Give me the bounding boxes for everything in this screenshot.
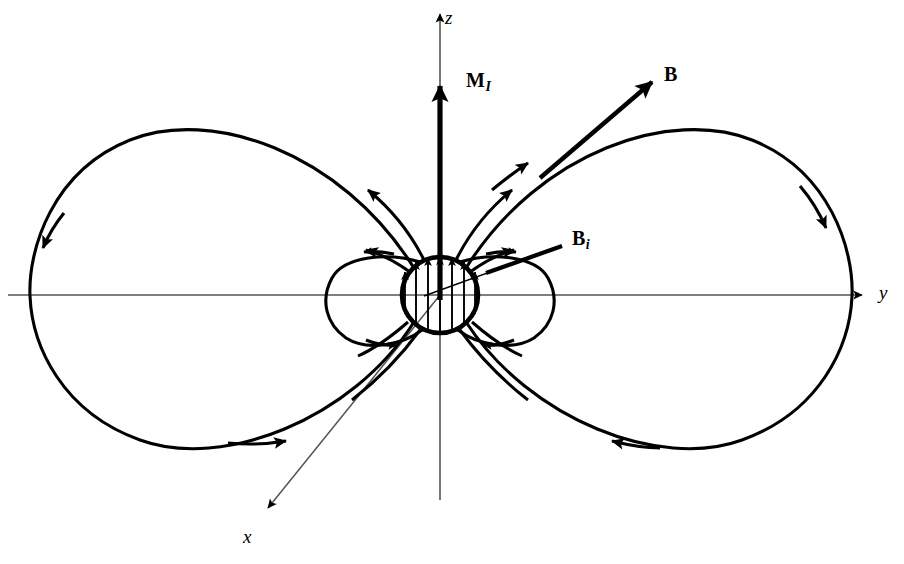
axis-label-z: z	[445, 8, 452, 27]
field-line-nw	[368, 190, 424, 260]
field-line-ne	[456, 190, 512, 260]
vector-external-field	[540, 82, 652, 178]
vector-label-Bi-subscript: i	[585, 237, 589, 252]
axis-x-line	[268, 295, 440, 508]
vector-B-arrow	[540, 82, 652, 178]
axis-label-x: x	[243, 527, 251, 546]
vector-label-Bi-base: B	[572, 227, 585, 249]
field-diagram	[0, 0, 904, 564]
field-arrow-right-outer	[800, 186, 826, 228]
vector-label-magnetization: MI	[466, 70, 491, 94]
axis-label-y: y	[879, 283, 887, 302]
vector-label-M-base: M	[466, 69, 485, 91]
vector-label-interior-field: Bi	[572, 228, 590, 252]
vector-label-M-subscript: I	[485, 79, 491, 94]
figure-root: z y x MI B Bi	[0, 0, 904, 564]
field-line-outer-right	[466, 130, 852, 449]
vector-label-external-field: B	[664, 64, 677, 84]
field-line-outer-left	[30, 130, 414, 449]
leader-Bi-thick	[486, 246, 562, 273]
vector-label-B-base: B	[664, 63, 677, 85]
field-arrow-left-lower	[228, 441, 286, 444]
axis-x	[268, 295, 440, 508]
field-arrow-right-upper	[492, 163, 528, 190]
